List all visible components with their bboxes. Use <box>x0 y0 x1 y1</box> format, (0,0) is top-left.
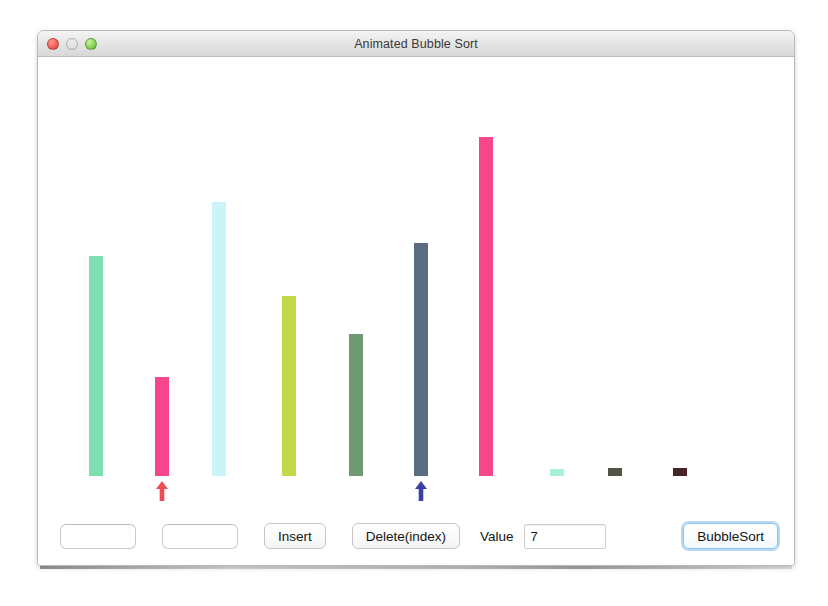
desk-shadow-line <box>40 566 792 569</box>
window-title-bar: Animated Bubble Sort <box>38 31 794 57</box>
bar-9 <box>673 468 687 476</box>
minimize-button[interactable] <box>66 38 78 50</box>
bar-7 <box>550 469 564 476</box>
bar-0 <box>89 256 103 476</box>
bar-1 <box>155 377 169 476</box>
value-label: Value <box>480 529 514 544</box>
app-window: Animated Bubble Sort Insert Delete(index… <box>37 30 795 566</box>
insert-button[interactable]: Insert <box>264 523 326 549</box>
value-input[interactable] <box>524 524 606 549</box>
bottom-toolbar: Insert Delete(index) Value BubbleSort <box>38 507 794 565</box>
bubblesort-button[interactable]: BubbleSort <box>683 523 778 549</box>
window-title: Animated Bubble Sort <box>38 37 794 51</box>
bar-chart-canvas[interactable] <box>38 57 794 507</box>
bar-4 <box>349 334 363 476</box>
bar-5 <box>414 243 428 476</box>
bar-6 <box>479 137 493 476</box>
bar-8 <box>608 468 622 476</box>
bar-2 <box>212 202 226 476</box>
bar-3 <box>282 296 296 476</box>
compare-pointer-red-icon <box>155 480 169 502</box>
delete-index-button[interactable]: Delete(index) <box>352 523 460 549</box>
compare-pointer-blue-icon <box>414 480 428 502</box>
close-button[interactable] <box>47 38 59 50</box>
window-controls <box>47 38 97 50</box>
maximize-button[interactable] <box>85 38 97 50</box>
index-input-2[interactable] <box>162 524 238 549</box>
index-input-1[interactable] <box>60 524 136 549</box>
